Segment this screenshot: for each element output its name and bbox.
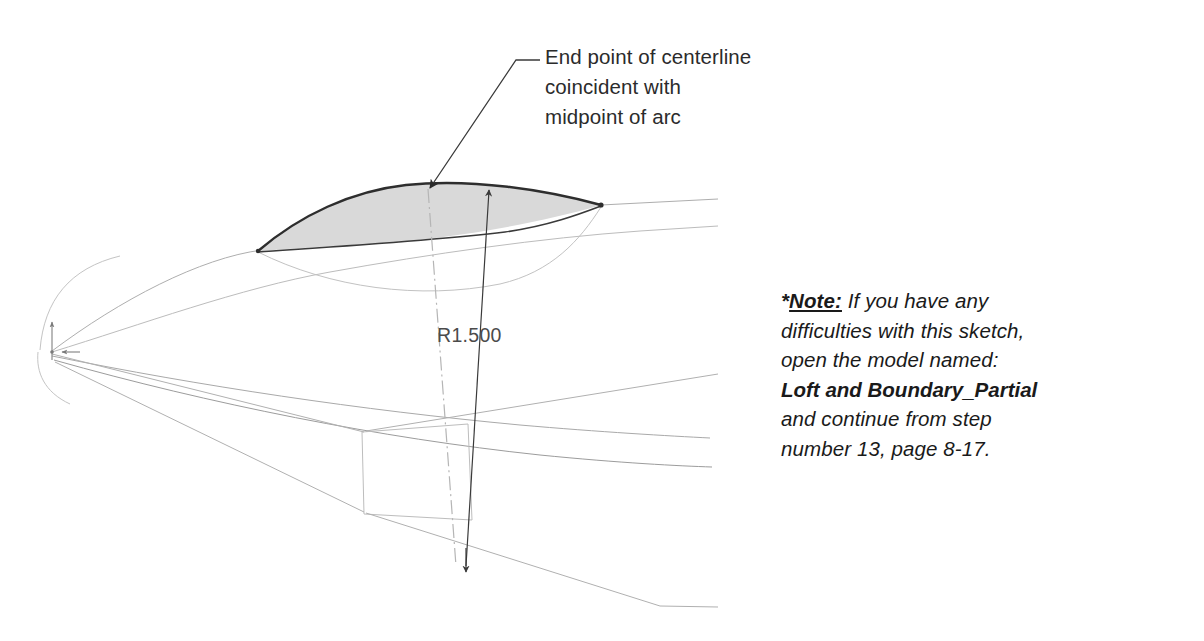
note-line-5: and continue from step [781,404,1111,434]
note-line-2: difficulties with this sketch, [781,316,1111,346]
callout-text: End point of centerline coincident with … [545,42,845,132]
note-line-1-text: If you have any [848,289,989,312]
figure-root: End point of centerline coincident with … [0,0,1204,641]
note-model-name: Loft and Boundary_Partial [781,375,1111,405]
loft-right-vertex [598,202,603,207]
note-heading: Note: [789,289,842,312]
note-asterisk: * [781,289,789,312]
note-line-3: open the model named: [781,345,1111,375]
radius-dimension-label: R1.500 [437,324,502,346]
origin-point [50,350,54,354]
note-line-6: number 13, page 8-17. [781,434,1111,464]
note-block: *Note: If you have any difficulties with… [781,286,1111,463]
note-line-1: *Note: If you have any [781,286,1111,316]
loft-left-vertex [256,249,260,253]
